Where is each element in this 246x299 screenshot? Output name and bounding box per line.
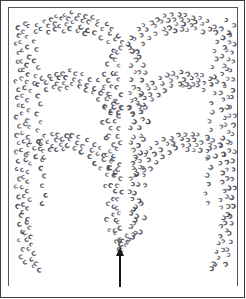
arrow-annotation <box>0 0 246 299</box>
arrow-shaft <box>119 254 121 287</box>
figure-page: cccccccccccccccccccccccccccccccccccccccc… <box>0 0 246 299</box>
arrow-head-icon <box>116 247 124 256</box>
